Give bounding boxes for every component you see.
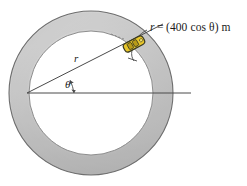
angle-label: θ [65, 78, 70, 90]
figure-container: r = (400 cos θ) m r θ [0, 0, 247, 186]
equation-label: r = (400 cos θ) m [150, 21, 231, 33]
radius-label: r [74, 52, 78, 64]
equation-expression: (400 cos θ) m [166, 21, 231, 33]
equation-equals: = [155, 21, 166, 33]
